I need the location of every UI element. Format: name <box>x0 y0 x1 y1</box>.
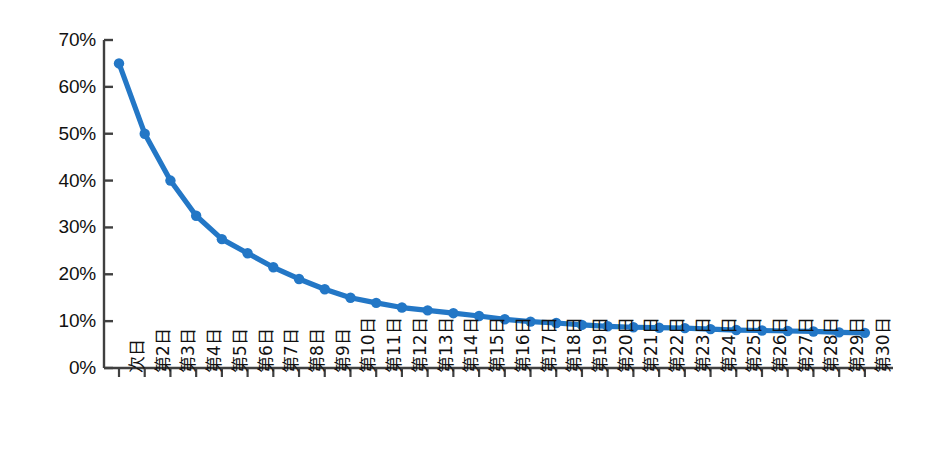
x-tick-label: 第3日 <box>159 372 181 464</box>
x-tick-label: 第30日 <box>854 372 876 464</box>
x-tick-label: 第14日 <box>442 372 464 464</box>
x-tick-label: 第27日 <box>777 372 799 464</box>
x-tick-label: 第25日 <box>725 372 747 464</box>
x-tick-label: 第11日 <box>365 372 387 464</box>
x-tick-label: 第6日 <box>237 372 259 464</box>
x-tick-label: 第2日 <box>134 372 156 464</box>
x-tick-label: 第4日 <box>185 372 207 464</box>
x-tick-label: 第28日 <box>802 372 824 464</box>
retention-curve-chart: 0%10%20%30%40%50%60%70% 次日第2日第3日第4日第5日第6… <box>0 0 925 465</box>
x-tick-label: 第15日 <box>468 372 490 464</box>
x-tick-label: 第23日 <box>674 372 696 464</box>
x-tick-label: 第12日 <box>391 372 413 464</box>
x-tick-label: 第19日 <box>571 372 593 464</box>
x-tick-label: 第29日 <box>828 372 850 464</box>
x-tick-label: 第21日 <box>622 372 644 464</box>
x-tick-label: 第5日 <box>211 372 233 464</box>
x-tick-label: 第26日 <box>751 372 773 464</box>
x-tick-label: 第16日 <box>494 372 516 464</box>
y-axis-ticks <box>104 40 113 368</box>
x-tick-label: 第7日 <box>262 372 284 464</box>
x-tick-label: 第9日 <box>314 372 336 464</box>
x-tick-label: 第10日 <box>339 372 361 464</box>
x-tick-label: 第22日 <box>648 372 670 464</box>
series-line <box>119 63 865 332</box>
x-tick-label: 第13日 <box>417 372 439 464</box>
x-tick-label: 次日 <box>108 372 130 464</box>
x-tick-label: 第24日 <box>700 372 722 464</box>
series-markers <box>114 58 870 338</box>
x-tick-label: 第8日 <box>288 372 310 464</box>
x-tick-label: 第20日 <box>597 372 619 464</box>
x-tick-label: 第17日 <box>520 372 542 464</box>
x-tick-label: 第18日 <box>545 372 567 464</box>
x-axis-tick-labels: 次日第2日第3日第4日第5日第6日第7日第8日第9日第10日第11日第12日第1… <box>0 372 925 465</box>
